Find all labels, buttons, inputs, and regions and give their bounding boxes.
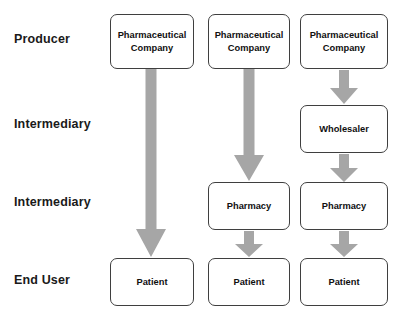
arrow-col3-wholesaler-to-pharmacy (329, 154, 359, 182)
distribution-channel-diagram: Producer Intermediary Intermediary End U… (0, 0, 396, 335)
node-label: Pharmaceutical Company (118, 29, 187, 54)
node-label: Pharmaceutical Company (310, 29, 379, 54)
node-col1-patient[interactable]: Patient (110, 258, 194, 306)
node-col3-pharmacy[interactable]: Pharmacy (300, 182, 388, 230)
node-col2-pharmaceutical-company[interactable]: Pharmaceutical Company (208, 14, 290, 69)
node-col3-patient[interactable]: Patient (300, 258, 388, 306)
row-label-end-user: End User (14, 274, 124, 287)
node-label: Wholesaler (319, 123, 369, 135)
row-label-intermediary-1: Intermediary (14, 118, 124, 131)
node-label: Patient (329, 276, 360, 288)
arrow-col3-producer-to-wholesaler (329, 70, 359, 104)
node-label: Pharmacy (227, 200, 271, 212)
node-label: Patient (234, 276, 265, 288)
node-col3-wholesaler[interactable]: Wholesaler (300, 105, 388, 153)
arrow-col3-pharmacy-to-patient (329, 231, 359, 257)
node-col2-patient[interactable]: Patient (208, 258, 290, 306)
arrow-col2-pharmacy-to-patient (234, 231, 264, 257)
node-label: Pharmacy (322, 200, 366, 212)
arrow-col2-producer-to-pharmacy (233, 69, 265, 181)
row-label-intermediary-2: Intermediary (14, 196, 124, 209)
row-label-producer: Producer (14, 33, 124, 46)
node-col2-pharmacy[interactable]: Pharmacy (208, 182, 290, 230)
node-col3-pharmaceutical-company[interactable]: Pharmaceutical Company (300, 14, 388, 69)
node-col1-pharmaceutical-company[interactable]: Pharmaceutical Company (110, 14, 194, 69)
node-label: Patient (137, 276, 168, 288)
arrow-col1-producer-to-patient (135, 69, 167, 257)
node-label: Pharmaceutical Company (215, 29, 284, 54)
